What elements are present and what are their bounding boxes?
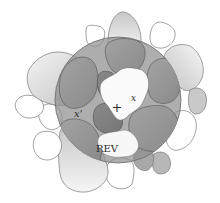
grain (150, 22, 175, 48)
diagram-svg: + x x' REV (0, 0, 220, 203)
rev-diagram: + x x' REV (0, 0, 220, 203)
center-point-label: x (131, 93, 136, 103)
grain (188, 88, 206, 114)
grain (33, 131, 61, 160)
rev-label: REV (96, 143, 119, 154)
other-point-label: x' (74, 108, 82, 119)
grain (152, 152, 170, 174)
center-marker: + (112, 100, 123, 115)
